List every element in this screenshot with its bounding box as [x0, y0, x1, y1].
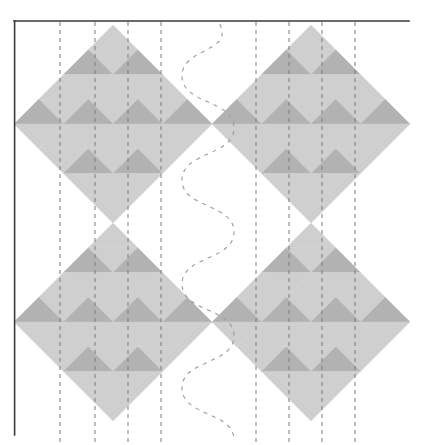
quilt-layout-diagram	[0, 0, 421, 445]
canvas-background	[0, 0, 421, 445]
diagram-canvas	[0, 0, 421, 445]
